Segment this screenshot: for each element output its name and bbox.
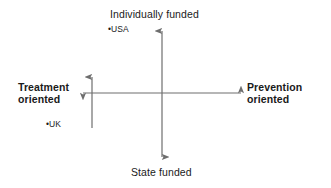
axis-label-treatment-oriented-line2: oriented [18,94,69,106]
data-point-uk: •UK [46,119,61,131]
positioning-matrix-diagram: Individually funded State funded Treatme… [0,0,331,188]
data-point-usa: •USA [108,24,129,36]
axis-label-prevention-oriented: Prevention oriented [247,82,302,105]
axis-label-prevention-oriented-line1: Prevention [247,82,302,94]
axis-label-prevention-oriented-line2: oriented [247,94,302,106]
axis-label-treatment-oriented: Treatment oriented [18,82,69,105]
axis-label-individually-funded: Individually funded [110,9,199,21]
axis-label-state-funded: State funded [131,167,192,179]
axis-label-treatment-oriented-line1: Treatment [18,82,69,94]
